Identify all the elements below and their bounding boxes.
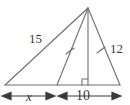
- label-right-side-length: 12: [110, 42, 123, 55]
- label-base-left-segment: x: [26, 90, 32, 103]
- right-angle-icon: [82, 79, 88, 85]
- triangle-left-side: [5, 8, 88, 85]
- geometry-diagram: 15 12 x 10: [0, 0, 130, 105]
- arrow-left-ten-icon: [58, 92, 67, 99]
- tick-mark-right-side-icon: [97, 47, 105, 53]
- arrow-left-x-icon: [2, 92, 11, 99]
- label-left-side-length: 15: [29, 32, 42, 45]
- label-base-right-segment: 10: [76, 89, 90, 103]
- arrow-right-x-icon: [46, 92, 55, 99]
- arrow-right-ten-icon: [112, 92, 121, 99]
- cevian-segment: [57, 8, 88, 85]
